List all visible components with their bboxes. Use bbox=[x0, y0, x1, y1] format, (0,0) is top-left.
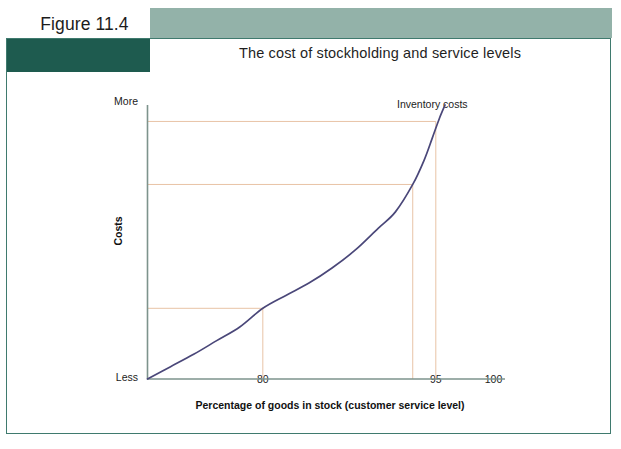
figure-header-bar bbox=[150, 8, 612, 38]
y-axis-min-label: Less bbox=[92, 371, 138, 383]
y-axis-max-label: More bbox=[92, 95, 138, 107]
y-axis-title: Costs bbox=[112, 199, 124, 263]
x-tick-label-100: 100 bbox=[474, 373, 514, 385]
chart-title: The cost of stockholding and service lev… bbox=[160, 45, 600, 61]
x-tick-label-95: 95 bbox=[416, 373, 456, 385]
x-axis-title: Percentage of goods in stock (customer s… bbox=[150, 399, 510, 411]
figure-number-label: Figure 11.4 bbox=[22, 11, 147, 37]
inventory-costs-label: Inventory costs bbox=[397, 98, 468, 110]
figure-root: Figure 11.4 The cost of stockholding and… bbox=[0, 0, 621, 449]
x-tick-label-80: 80 bbox=[243, 373, 283, 385]
